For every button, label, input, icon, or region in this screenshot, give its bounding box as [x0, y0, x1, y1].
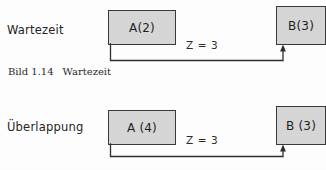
arrowhead-wartezeit: [280, 45, 286, 52]
caption-number: Bild 1.14: [8, 66, 54, 77]
node-label-a-ueberlappung: A (4): [127, 120, 157, 135]
arrowhead-ueberlappung: [280, 145, 286, 152]
node-label-a-wartezeit: A(2): [129, 20, 155, 35]
node-box-a-ueberlappung: A (4): [108, 110, 176, 145]
row-label-wartezeit: Wartezeit: [7, 23, 64, 38]
node-label-b-ueberlappung: B (3): [286, 118, 316, 133]
figure-caption: Bild 1.14Wartezeit: [8, 66, 111, 77]
node-label-b-wartezeit: B(3): [288, 18, 314, 33]
caption-title: Wartezeit: [63, 66, 112, 77]
node-box-b-wartezeit: B(3): [276, 6, 326, 45]
row-label-ueberlappung: Überlappung: [7, 120, 83, 135]
node-box-a-wartezeit: A(2): [108, 10, 176, 45]
relation-label-wartezeit: Z = 3: [186, 39, 218, 52]
relation-label-ueberlappung: Z = 3: [186, 134, 218, 147]
node-box-b-ueberlappung: B (3): [276, 106, 326, 145]
figure-wartezeit: Wartezeit A(2) B(3) Z = 3 Bild 1.14Warte…: [0, 0, 326, 170]
